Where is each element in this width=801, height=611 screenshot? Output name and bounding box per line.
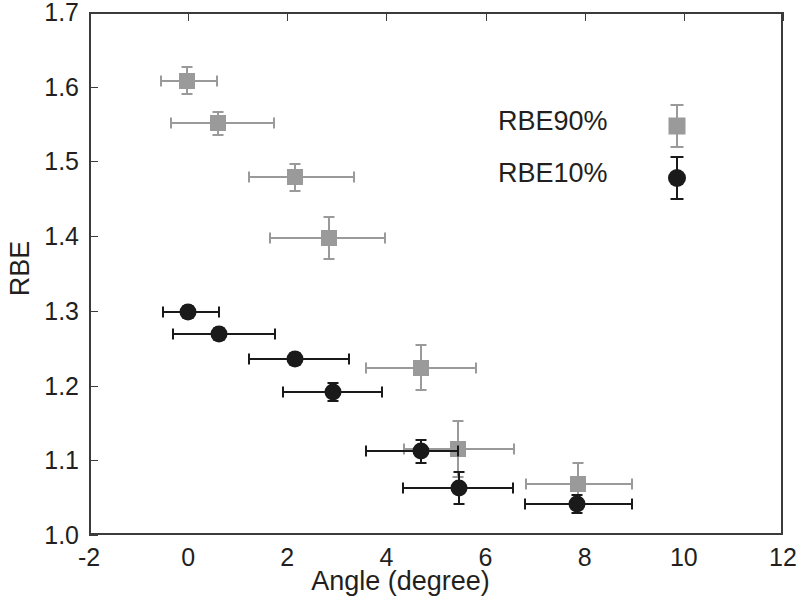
legend-entry-rbe10: RBE10% <box>498 154 693 206</box>
legend-marker-icon <box>668 169 686 187</box>
y-tick-label: 1.0 <box>27 521 79 550</box>
legend-label: RBE10% <box>498 158 608 189</box>
x-tick <box>783 12 784 21</box>
legend-label: RBE90% <box>498 106 608 137</box>
legend-error-cap-bot <box>671 146 684 148</box>
chart-legend: RBE90%RBE10% <box>498 102 693 206</box>
plot-frame <box>89 12 783 535</box>
legend-marker-icon <box>669 118 686 135</box>
y-tick-label: 1.5 <box>27 147 79 176</box>
y-tick-label: 1.6 <box>27 72 79 101</box>
legend-error-cap-top <box>671 104 684 106</box>
legend-entry-rbe90: RBE90% <box>498 102 693 154</box>
y-tick-label: 1.7 <box>27 0 79 27</box>
y-axis-label: RBE <box>5 214 36 324</box>
legend-marker-sample <box>666 102 688 150</box>
y-tick-label: 1.1 <box>27 446 79 475</box>
y-tick-label: 1.2 <box>27 371 79 400</box>
y-tick <box>89 535 98 536</box>
legend-marker-sample <box>666 154 688 202</box>
x-axis-label: Angle (degree) <box>0 566 801 597</box>
legend-error-cap-bot <box>671 198 684 200</box>
chart-figure: -2024681012 1.01.11.21.31.41.51.61.7 Ang… <box>0 0 801 611</box>
legend-error-cap-top <box>671 156 684 158</box>
